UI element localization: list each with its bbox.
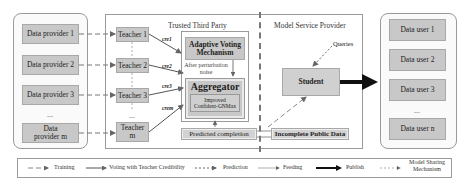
legend-prediction: Prediction <box>223 164 248 170</box>
legend-voting: Voting with Teacher Credibility <box>109 164 185 170</box>
legend-publish: Publish <box>346 164 364 170</box>
legend-model-sharing: Model Sharing Mechanism <box>404 159 450 172</box>
legend-symbols <box>0 0 469 187</box>
legend-training: Training <box>54 164 74 170</box>
legend-feeding: Feeding <box>283 164 302 170</box>
